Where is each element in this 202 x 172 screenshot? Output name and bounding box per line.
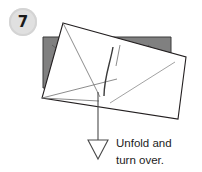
step-number-badge: 7 — [9, 8, 37, 36]
origami-step-diagram: 7 Unfold and turn over. — [0, 0, 202, 172]
caption-line-2: turn over. — [116, 154, 164, 166]
step-number-label: 7 — [18, 13, 28, 31]
caption-line-1: Unfold and — [116, 137, 172, 149]
